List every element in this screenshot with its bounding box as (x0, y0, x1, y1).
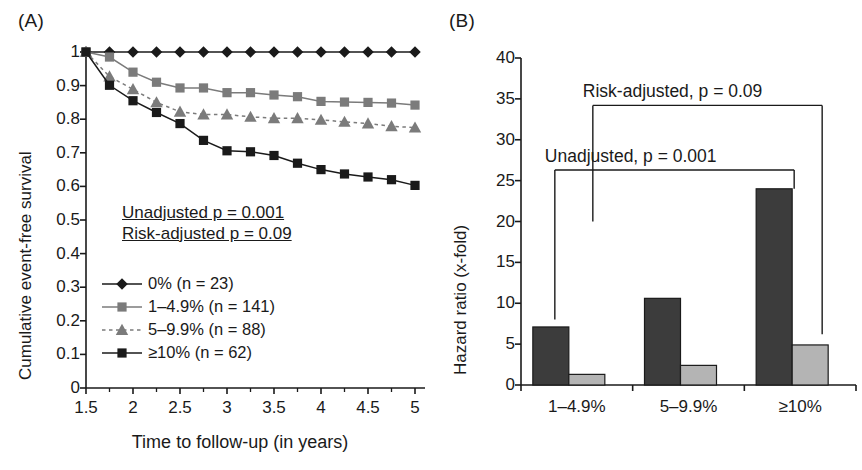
bar (756, 189, 792, 385)
legend-marker-icon (100, 299, 144, 315)
legend-label: 0% (n = 23) (148, 275, 234, 292)
legend-label: 1–4.9% (n = 141) (148, 298, 275, 315)
bracket-label: Unadjusted, p = 0.001 (545, 146, 717, 167)
bar (645, 298, 681, 385)
legend-item[interactable]: 0% (n = 23) (100, 272, 275, 295)
legend-item[interactable]: 1–4.9% (n = 141) (100, 295, 275, 318)
bar (569, 374, 605, 385)
panel-b: (B) Hazard ratio (x-fold) 40353025201510… (431, 0, 862, 470)
legend-item[interactable]: ≥10% (n = 62) (100, 341, 275, 364)
panel-a-riskadjusted-pvalue: Risk-adjusted p = 0.09 (122, 224, 292, 244)
panel-a-legend: 0% (n = 23)1–4.9% (n = 141)5–9.9% (n = 8… (100, 272, 275, 364)
bar (533, 327, 569, 385)
legend-marker-icon (100, 276, 144, 292)
legend-item[interactable]: 5–9.9% (n = 88) (100, 318, 275, 341)
figure-container: (A) Cumulative event-free survival Time … (0, 0, 862, 470)
panel-a-unadjusted-pvalue: Unadjusted p = 0.001 (122, 203, 284, 223)
legend-marker-icon (100, 345, 144, 361)
bar (681, 365, 717, 385)
legend-label: 5–9.9% (n = 88) (148, 321, 266, 338)
panel-a: (A) Cumulative event-free survival Time … (0, 0, 431, 470)
bar (792, 345, 828, 385)
panel-b-plot (431, 0, 862, 470)
legend-marker-icon (100, 322, 144, 338)
bracket-label: Risk-adjusted, p = 0.09 (583, 81, 762, 102)
legend-label: ≥10% (n = 62) (148, 344, 252, 361)
